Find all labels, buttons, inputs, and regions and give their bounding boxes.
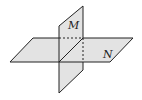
intersecting-planes-diagram: M N <box>0 0 142 100</box>
label-plane-n: N <box>102 48 113 61</box>
label-plane-m: M <box>67 19 80 32</box>
